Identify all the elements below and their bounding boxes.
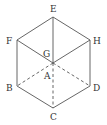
label-H: H [93,36,101,46]
cube-diagram: E F H G A B D C [0,0,107,125]
edge-AD [53,63,90,86]
label-A: A [43,71,51,81]
dashed-edges [17,63,90,108]
label-G: G [43,49,50,59]
edge-HG [53,40,90,63]
edge-EH [53,17,90,40]
edge-DC [53,86,90,108]
label-F: F [6,36,12,46]
label-D: D [93,83,100,93]
label-E: E [50,4,57,14]
label-B: B [6,83,13,93]
label-C: C [50,112,57,122]
edge-BC [17,86,53,108]
solid-edges [17,17,90,108]
cube-figure: E F H G A B D C [0,0,107,125]
edge-EF [17,17,53,40]
